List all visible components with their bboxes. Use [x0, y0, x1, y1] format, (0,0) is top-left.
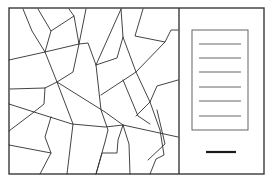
road-line	[79, 9, 86, 44]
road-line	[9, 112, 178, 137]
map-frame	[9, 8, 264, 174]
road-line	[38, 9, 74, 31]
legend-box	[192, 30, 248, 130]
road-line	[9, 88, 45, 112]
road-line	[40, 117, 51, 174]
legend-panel	[192, 30, 248, 152]
road-line	[45, 31, 51, 52]
road-line	[136, 102, 150, 116]
road-line	[123, 80, 150, 124]
road-line	[123, 125, 130, 174]
road-line	[57, 82, 123, 125]
road-line	[148, 110, 165, 160]
legend-entries	[199, 44, 241, 116]
map-diagram	[0, 0, 272, 180]
road-line	[135, 9, 178, 42]
road-line	[150, 80, 178, 102]
road-line	[9, 145, 51, 153]
map-figure	[0, 0, 272, 180]
road-line	[96, 125, 123, 174]
road-line	[101, 42, 165, 95]
road-network	[9, 9, 178, 174]
